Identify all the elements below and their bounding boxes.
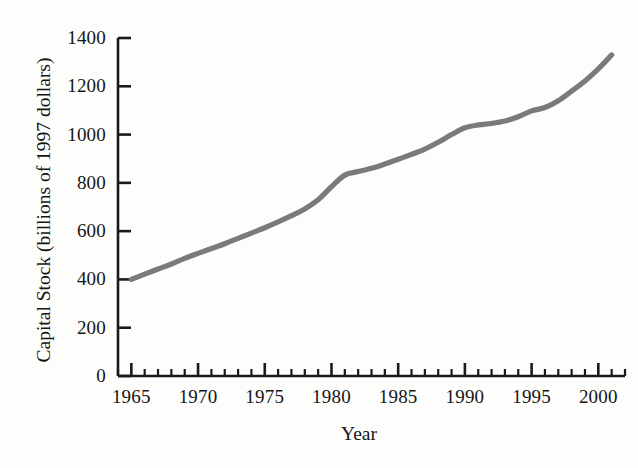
x-tick-label-1985: 1985 (363, 387, 433, 406)
chart-figure: 0200400600800100012001400 19651970197519… (0, 0, 638, 468)
axis-lines (118, 38, 625, 376)
x-tick-label-1975: 1975 (230, 387, 300, 406)
x-tick-label-1990: 1990 (430, 387, 500, 406)
data-series-line (131, 55, 611, 280)
x-axis-title: Year (118, 424, 600, 444)
x-axis-major-ticks (131, 363, 598, 376)
x-tick-label-1995: 1995 (497, 387, 567, 406)
x-tick-label-2000: 2000 (563, 387, 633, 406)
x-tick-label-1970: 1970 (163, 387, 233, 406)
x-tick-label-1965: 1965 (96, 387, 166, 406)
x-tick-label-1980: 1980 (296, 387, 366, 406)
capital-stock-line (131, 55, 611, 280)
y-axis-title: Capital Stock (billions of 1997 dollars) (34, 40, 54, 380)
y-axis-ticks (118, 38, 131, 376)
